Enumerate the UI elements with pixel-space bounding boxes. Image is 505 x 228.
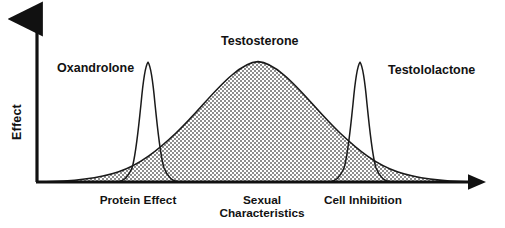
curve-label-oxandrolone: Oxandrolone <box>57 61 134 75</box>
y-axis-label: Effect <box>10 104 24 140</box>
x-axis-arrow-icon <box>468 174 486 190</box>
curve-label-testosterone: Testosterone <box>221 34 299 48</box>
x-axis-category-cell-inhibition: Cell Inhibition <box>324 194 402 207</box>
curve-label-testololactone: Testololactone <box>388 63 475 77</box>
x-axis-category-sexual-characteristics: Sexual Characteristics <box>219 194 304 220</box>
curve-testosterone <box>40 62 472 182</box>
effect-curves-chart: Effect Oxandrolone Testosterone Testolol… <box>0 0 505 228</box>
x-axis-category-protein-effect: Protein Effect <box>100 194 177 207</box>
category-line-2: Characteristics <box>219 207 304 220</box>
